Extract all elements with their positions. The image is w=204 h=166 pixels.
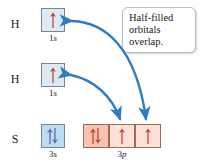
orbital-box-h1-1s — [41, 8, 65, 32]
orbital-box-s-3p-2 — [109, 124, 135, 148]
arrow-h2-to-3p2 — [71, 75, 120, 119]
callout-line-3: overlap. — [129, 36, 190, 48]
orbital-box-s-3p-1 — [83, 124, 109, 148]
subshell-letter-h1: s — [53, 33, 57, 43]
electron-spin-pair-icon — [45, 127, 61, 145]
subshell-caption-h1: 1s — [41, 34, 65, 43]
orbital-overlap-figure: H 1s H 1s S 3s — [0, 0, 204, 166]
subshell-caption-h2: 1s — [41, 89, 65, 98]
callout-half-filled-orbitals: Half-filled orbitals overlap. — [122, 7, 196, 53]
subshell-letter-3s: s — [53, 149, 57, 159]
electron-spin-up-icon — [116, 127, 128, 145]
subshell-letter-3p: p — [122, 149, 127, 159]
callout-line-1: Half-filled — [129, 12, 190, 24]
element-label-sulfur: S — [6, 133, 24, 145]
electron-spin-up-icon — [47, 66, 59, 84]
subshell-caption-s-3s: 3s — [41, 150, 65, 159]
electron-spin-up-icon — [47, 11, 59, 29]
callout-line-2: orbitals — [129, 24, 190, 36]
orbital-box-s-3p-3 — [135, 124, 161, 148]
subshell-letter-h2: s — [53, 88, 57, 98]
orbital-box-h2-1s — [41, 63, 65, 87]
element-label-hydrogen-1: H — [6, 18, 24, 30]
subshell-caption-s-3p: 3p — [83, 150, 161, 159]
orbital-box-s-3s — [41, 124, 65, 148]
electron-spin-pair-icon — [88, 127, 104, 145]
element-label-hydrogen-2: H — [6, 73, 24, 85]
electron-spin-up-icon — [142, 127, 154, 145]
